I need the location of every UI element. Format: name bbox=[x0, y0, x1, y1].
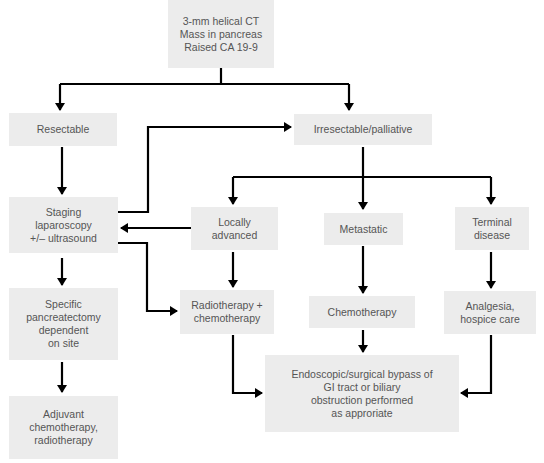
node-terminal: Terminal disease bbox=[455, 207, 529, 250]
node-staging: Staging laparoscopy +/– ultrasound bbox=[9, 197, 118, 253]
edge-radio-chemo-bypass bbox=[233, 335, 262, 393]
node-terminal-label: Terminal disease bbox=[472, 216, 512, 242]
node-pancreatectomy: Specific pancreatectomy dependent on sit… bbox=[9, 288, 118, 360]
node-analgesia: Analgesia, hospice care bbox=[444, 291, 536, 334]
node-bypass-label: Endoscopic/surgical bypass of GI tract o… bbox=[291, 368, 432, 420]
node-radio-chemo: Radiotherapy + chemotherapy bbox=[180, 290, 274, 334]
node-adjuvant-label: Adjuvant chemotherapy, radiotherapy bbox=[29, 408, 98, 447]
node-chemotherapy-label: Chemotherapy bbox=[328, 306, 397, 319]
edge-staging-radio-chemo bbox=[118, 243, 177, 311]
node-start: 3-mm helical CT Mass in pancreas Raised … bbox=[168, 0, 274, 68]
node-metastatic: Metastatic bbox=[324, 213, 403, 245]
edge-staging-irresectable bbox=[118, 127, 291, 212]
node-chemotherapy: Chemotherapy bbox=[309, 296, 415, 328]
node-resectable-label: Resectable bbox=[37, 123, 90, 136]
node-staging-label: Staging laparoscopy +/– ultrasound bbox=[30, 206, 97, 245]
edge-analgesia-bypass bbox=[461, 335, 491, 393]
node-metastatic-label: Metastatic bbox=[340, 223, 388, 236]
node-locally-advanced: Locally advanced bbox=[191, 207, 278, 250]
node-radio-chemo-label: Radiotherapy + chemotherapy bbox=[191, 299, 263, 325]
node-irresectable-label: Irresectable/palliative bbox=[314, 123, 413, 136]
node-adjuvant: Adjuvant chemotherapy, radiotherapy bbox=[9, 396, 118, 459]
node-resectable: Resectable bbox=[9, 113, 117, 146]
node-start-label: 3-mm helical CT Mass in pancreas Raised … bbox=[180, 15, 262, 54]
node-locally-advanced-label: Locally advanced bbox=[212, 216, 258, 242]
node-bypass: Endoscopic/surgical bypass of GI tract o… bbox=[265, 355, 459, 432]
node-pancreatectomy-label: Specific pancreatectomy dependent on sit… bbox=[26, 298, 101, 350]
node-analgesia-label: Analgesia, hospice care bbox=[460, 300, 520, 326]
node-irresectable: Irresectable/palliative bbox=[294, 114, 432, 145]
